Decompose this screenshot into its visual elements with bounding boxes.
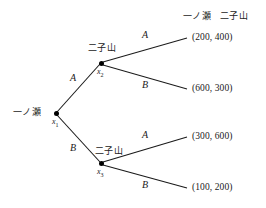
terminal-payoff-t4: (100, 200) bbox=[192, 183, 233, 193]
node-id-x2-sub: 2 bbox=[101, 72, 104, 78]
action-label-x1-A: A bbox=[70, 73, 76, 83]
action-label-x3-B: B bbox=[142, 180, 148, 190]
decision-node-x1[interactable] bbox=[54, 111, 59, 116]
node-player-label-x2: 二子山 bbox=[88, 44, 116, 53]
game-tree-diagram: 一ノ瀬 二子山 一ノ瀬 二子山 二子山 x1 x2 x3 A B A B A B… bbox=[0, 0, 266, 208]
node-id-x3: x3 bbox=[97, 168, 104, 178]
column-header-player-1: 一ノ瀬 bbox=[183, 12, 211, 21]
edge-x1-to-x3 bbox=[57, 115, 100, 162]
edge-x1-to-x2 bbox=[57, 64, 100, 112]
node-player-label-x3: 二子山 bbox=[95, 147, 123, 156]
terminal-payoff-t2: (600, 300) bbox=[192, 84, 233, 94]
decision-node-x3[interactable] bbox=[99, 161, 104, 166]
action-label-x2-B: B bbox=[142, 80, 148, 90]
terminal-payoff-t1: (200, 400) bbox=[192, 33, 233, 43]
node-player-label-x1: 一ノ瀬 bbox=[13, 108, 41, 117]
node-id-x3-sub: 3 bbox=[101, 172, 104, 178]
action-label-x1-B: B bbox=[70, 143, 76, 153]
node-id-x1: x1 bbox=[52, 118, 59, 128]
action-label-x3-A: A bbox=[142, 130, 148, 140]
terminal-payoff-t3: (300, 600) bbox=[192, 132, 233, 142]
column-header-player-2: 二子山 bbox=[220, 12, 248, 21]
action-label-x2-A: A bbox=[142, 30, 148, 40]
decision-node-x2[interactable] bbox=[99, 61, 104, 66]
node-id-x1-sub: 1 bbox=[56, 122, 59, 128]
node-id-x2: x2 bbox=[97, 68, 104, 78]
